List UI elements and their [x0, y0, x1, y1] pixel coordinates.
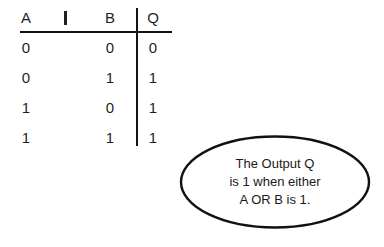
table-row: 1 — [15, 130, 37, 146]
callout-ellipse: The Output Q is 1 when either A OR B is … — [179, 135, 371, 229]
table-row: 0 — [15, 70, 37, 86]
column-separator-glyph — [64, 11, 67, 25]
table-row: 1 — [15, 100, 37, 116]
table-row: 1 — [142, 100, 164, 116]
callout-line-2: is 1 when either — [229, 173, 320, 191]
callout-line-1: The Output Q — [236, 155, 315, 173]
table-row: 0 — [142, 40, 164, 56]
header-underline — [20, 31, 172, 33]
table-row: 0 — [15, 40, 37, 56]
column-header-b: B — [99, 10, 121, 26]
column-header-a: A — [15, 10, 37, 26]
table-row: 0 — [99, 40, 121, 56]
callout-text: The Output Q is 1 when either A OR B is … — [179, 135, 371, 229]
table-row: 1 — [142, 70, 164, 86]
column-header-q: Q — [142, 10, 164, 26]
table-row: 1 — [99, 70, 121, 86]
table-row: 0 — [99, 100, 121, 116]
callout-line-3: A OR B is 1. — [240, 191, 311, 209]
table-row: 1 — [142, 130, 164, 146]
truth-table: A B Q 0 0 0 0 1 1 1 0 1 1 1 1 — [0, 0, 192, 150]
output-column-divider — [136, 8, 138, 146]
table-row: 1 — [99, 130, 121, 146]
